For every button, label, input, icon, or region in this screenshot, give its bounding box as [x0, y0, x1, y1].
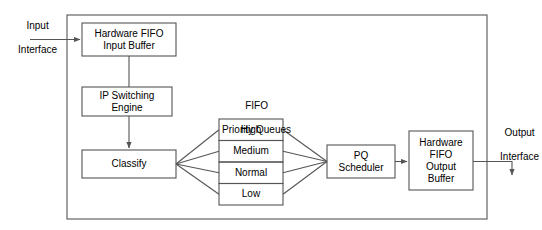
queue-medium-text: Medium [233, 145, 269, 157]
group-label-line1: FIFO [245, 100, 268, 111]
queue-low-text: Low [242, 188, 260, 200]
output-buffer-line3: Output [426, 161, 456, 172]
edge-normal-to-scheduler [283, 162, 327, 173]
classify-line1: Classify [111, 158, 146, 170]
pq-scheduler-label: PQ Scheduler [327, 145, 395, 178]
output-interface-label: Output Interface [486, 115, 542, 175]
input-buffer-line1: Hardware FIFO [95, 28, 164, 39]
pq-scheduler-line2: Scheduler [338, 162, 383, 173]
input-interface-label: Input Interface [4, 8, 60, 68]
queue-medium-label: Medium [219, 141, 283, 163]
edge-low-to-scheduler [283, 162, 327, 195]
switch-engine-label: IP Switching Engine [82, 87, 172, 116]
queue-high-label: High [219, 119, 283, 141]
output-buffer-label: Hardware FIFO Output Buffer [409, 131, 473, 190]
input-buffer-line2: Input Buffer [103, 40, 155, 51]
input-interface-line1: Input [26, 20, 48, 31]
output-buffer-line1: Hardware [419, 137, 462, 148]
input-buffer-label: Hardware FIFO Input Buffer [82, 23, 176, 56]
output-buffer-line4: Buffer [428, 173, 455, 184]
output-interface-line2: Interface [500, 151, 539, 162]
queue-normal-text: Normal [235, 167, 267, 179]
queue-low-label: Low [219, 184, 283, 206]
switch-engine-line1: IP Switching [100, 90, 155, 101]
queue-normal-label: Normal [219, 162, 283, 184]
output-interface-line1: Output [505, 127, 535, 138]
queue-high-text: High [241, 124, 262, 136]
pq-scheduler-line1: PQ [354, 150, 368, 161]
diagram-canvas: Input Interface Output Interface FIFO Pr… [0, 0, 542, 230]
edge-classify-to-medium [176, 151, 219, 164]
classify-label: Classify [82, 150, 176, 178]
input-interface-line2: Interface [18, 44, 57, 55]
switch-engine-line2: Engine [111, 102, 142, 113]
output-buffer-line2: FIFO [430, 149, 453, 160]
